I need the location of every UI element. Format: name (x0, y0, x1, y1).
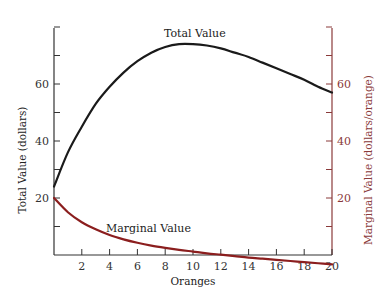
x-tick-label: 4 (106, 260, 113, 273)
y-tick-label-right: 20 (337, 192, 351, 205)
total-value-annotation: Total Value (164, 27, 226, 40)
axes: 2040602040602468101214161820 (35, 27, 351, 273)
x-axis-title: Oranges (171, 275, 216, 287)
y-tick-label-left: 20 (35, 192, 49, 205)
x-tick-label: 14 (242, 260, 256, 273)
series (54, 44, 332, 265)
x-tick-label: 2 (78, 260, 85, 273)
x-tick-label: 16 (269, 260, 283, 273)
y-tick-label-right: 60 (337, 78, 351, 91)
y-tick-label-right: 40 (337, 135, 351, 148)
x-tick-label: 6 (134, 260, 141, 273)
x-tick-label: 10 (186, 260, 200, 273)
x-tick-label: 12 (214, 260, 228, 273)
x-tick-label: 20 (325, 260, 339, 273)
y-axis-title-right: Marginal Value (dollars/orange) (362, 75, 374, 245)
y-axis-title-left: Total Value (dollars) (16, 107, 28, 214)
chart: 2040602040602468101214161820 Total Value… (0, 0, 384, 302)
x-tick-label: 8 (162, 260, 169, 273)
marginal-value-annotation: Marginal Value (106, 222, 191, 235)
total-value-curve (54, 44, 332, 187)
y-tick-label-left: 60 (35, 78, 49, 91)
y-tick-label-left: 40 (35, 135, 49, 148)
